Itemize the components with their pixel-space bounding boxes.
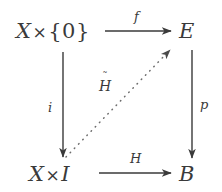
node-top-left-base: X bbox=[16, 19, 31, 43]
arrow-label-h: H bbox=[130, 152, 141, 165]
node-bottom-right-base: B bbox=[179, 162, 195, 186]
h-tilde-glyph: ˜H bbox=[99, 79, 111, 93]
node-bottom-left: X×I bbox=[29, 164, 70, 185]
node-bottom-left-base: X bbox=[29, 162, 44, 186]
node-top-left-operator: × bbox=[31, 22, 48, 42]
arrow-diagonal-h-tilde bbox=[66, 50, 170, 157]
arrow-label-i: i bbox=[48, 101, 52, 114]
node-top-left: X×{0} bbox=[16, 21, 90, 42]
node-top-right: E bbox=[179, 21, 195, 42]
tilde-accent-icon: ˜ bbox=[102, 71, 108, 82]
arrow-label-h-tilde: ˜H bbox=[99, 79, 111, 93]
node-bottom-right: B bbox=[179, 164, 195, 185]
commutative-diagram: X×{0} E X×I B f i p H ˜H bbox=[0, 0, 222, 192]
node-top-right-base: E bbox=[179, 19, 195, 43]
arrow-label-f: f bbox=[134, 10, 139, 23]
arrow-label-p: p bbox=[200, 98, 208, 111]
node-bottom-left-operator: × bbox=[44, 165, 61, 185]
node-bottom-left-argument: I bbox=[61, 162, 70, 186]
node-top-left-argument: {0} bbox=[48, 19, 90, 43]
